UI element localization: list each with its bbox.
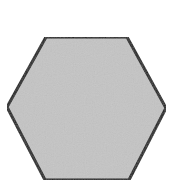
hexagon-diagram [0, 0, 186, 196]
diagram-canvas [0, 0, 186, 196]
hexagon-shape [7, 37, 166, 180]
